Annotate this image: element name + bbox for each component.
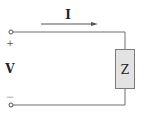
top-terminal: [9, 30, 13, 34]
voltage-label: V: [4, 62, 15, 76]
arrow-head-icon: [91, 22, 98, 26]
bottom-terminal: [9, 103, 13, 107]
minus-sign: —: [7, 93, 14, 101]
plus-sign: +: [6, 38, 14, 48]
current-label: I: [65, 8, 71, 22]
impedance-label: Z: [121, 63, 129, 77]
circuit-diagram: Z I + V —: [0, 0, 149, 122]
